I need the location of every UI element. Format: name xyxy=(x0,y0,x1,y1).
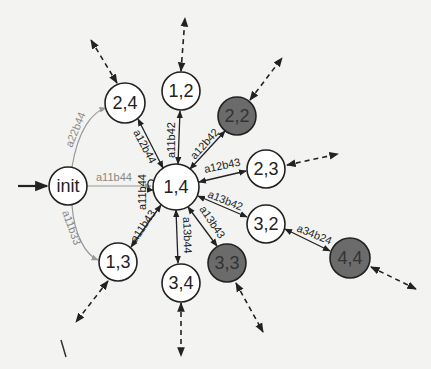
svg-text:3,4: 3,4 xyxy=(168,273,193,293)
svg-text:2,2: 2,2 xyxy=(224,106,249,126)
node-2-4: 2,4 xyxy=(105,83,145,123)
dashed-edge-12 xyxy=(181,18,185,71)
edge-14-12 xyxy=(178,111,180,164)
stray-mark xyxy=(61,340,66,357)
edge-label-init-13: a11b33 xyxy=(60,209,84,247)
svg-text:1,2: 1,2 xyxy=(168,81,193,101)
node-init: init xyxy=(49,167,87,205)
svg-text:1,4: 1,4 xyxy=(163,177,188,197)
edge-label-14-24: a12b44 xyxy=(131,127,159,165)
dashed-edge-13 xyxy=(76,281,108,322)
svg-text:2,3: 2,3 xyxy=(253,159,278,179)
node-3-4: 3,4 xyxy=(162,264,200,302)
edge-label-self-14: a11b44 xyxy=(136,174,148,210)
node-4-4: 4,4 xyxy=(330,238,370,278)
svg-text:3,3: 3,3 xyxy=(214,253,239,273)
edge-label-14-12: a11b42 xyxy=(165,122,177,158)
dashed-edge-44 xyxy=(371,267,416,289)
edge-label-14-34: a13b44 xyxy=(181,217,194,254)
dashed-edge-24 xyxy=(91,40,117,83)
diagram-canvas: a11b44 a22b44 a11b33 a12b44 a11b42 a12b4… xyxy=(0,0,431,369)
edge-label-14-33: a13b43 xyxy=(197,203,227,240)
edge-label-14-13: a11b43 xyxy=(128,208,158,244)
svg-text:2,4: 2,4 xyxy=(112,93,137,113)
edge-label-14-23: a12b43 xyxy=(203,156,241,175)
svg-text:init: init xyxy=(56,176,79,196)
edge-label-14-22: a12b42 xyxy=(188,126,221,161)
node-2-3: 2,3 xyxy=(247,150,285,188)
node-1-3: 1,3 xyxy=(99,243,137,281)
node-2-2: 2,2 xyxy=(218,97,256,135)
dashed-edge-22 xyxy=(250,58,282,100)
node-3-3: 3,3 xyxy=(208,244,246,282)
edge-14-34 xyxy=(176,210,178,263)
edge-label-init-14: a11b44 xyxy=(96,171,132,183)
node-3-2: 3,2 xyxy=(247,205,285,243)
svg-text:1,3: 1,3 xyxy=(105,252,130,272)
node-1-4: 1,4 xyxy=(153,164,199,210)
dashed-edge-23 xyxy=(287,154,338,165)
node-1-2: 1,2 xyxy=(162,72,200,110)
svg-text:3,2: 3,2 xyxy=(253,214,278,234)
dashed-edge-33 xyxy=(236,283,263,332)
state-graph: a11b44 a22b44 a11b33 a12b44 a11b42 a12b4… xyxy=(0,0,431,369)
svg-text:4,4: 4,4 xyxy=(337,248,362,268)
